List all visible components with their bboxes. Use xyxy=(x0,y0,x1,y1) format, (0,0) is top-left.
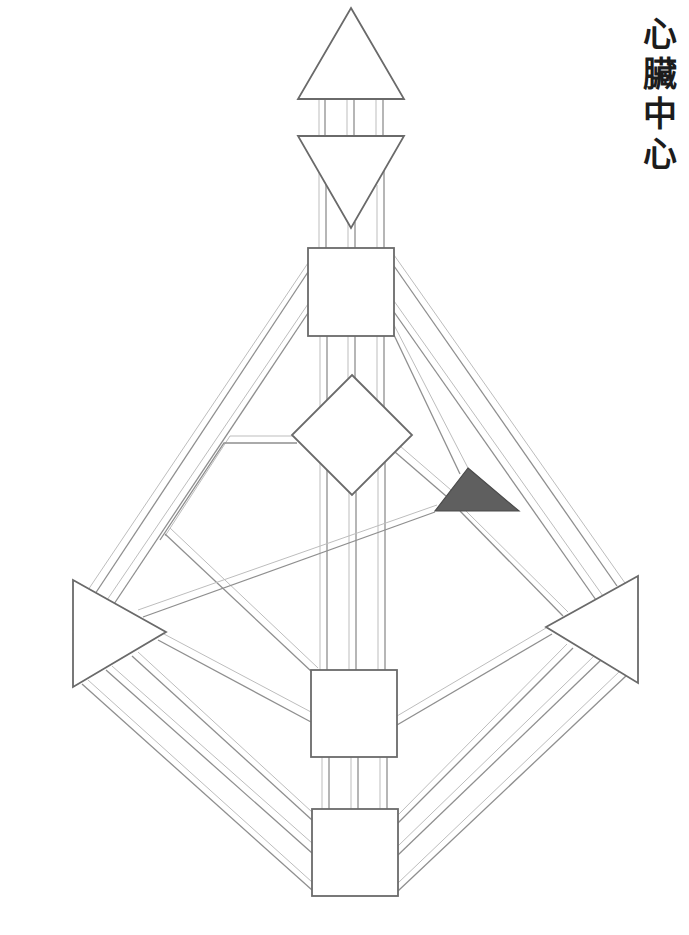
root-center xyxy=(312,809,398,896)
channel-sacral-root xyxy=(322,757,387,809)
channel-solar-plexus-root xyxy=(398,644,627,891)
channel-throat-heart xyxy=(394,325,468,474)
channel-throat-spleen xyxy=(88,263,308,604)
channel-spleen-sacral xyxy=(158,634,311,722)
centers xyxy=(73,8,638,896)
channel-solar-plexus-sacral xyxy=(397,628,552,725)
channel-throat-solar-plexus xyxy=(394,255,625,600)
heart-center xyxy=(435,468,519,511)
throat-center xyxy=(308,248,394,336)
bodygraph-diagram xyxy=(0,0,689,935)
channel-heart-spleen xyxy=(138,505,437,617)
channel-g-heart xyxy=(395,446,451,496)
head-center xyxy=(298,8,404,99)
sacral-center xyxy=(311,670,397,757)
channel-spleen-root xyxy=(82,652,312,890)
channel-heart-solar-plexus xyxy=(460,511,568,616)
channel-spleen-sacral-cross xyxy=(165,528,318,672)
g-center xyxy=(292,375,412,495)
ajna-center xyxy=(298,136,404,228)
channel-head-ajna xyxy=(319,99,383,136)
solar-plexus-center xyxy=(546,576,638,683)
